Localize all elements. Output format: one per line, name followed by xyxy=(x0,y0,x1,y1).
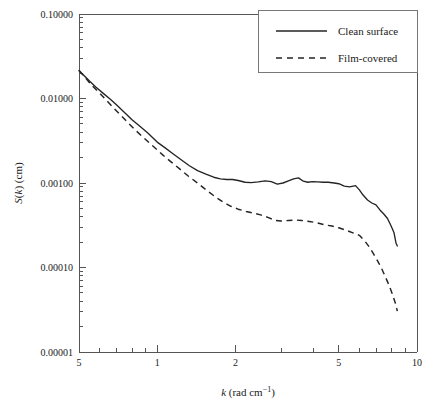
y-axis-tick-labels: 0.100000.010000.001000.000100.00001 xyxy=(41,9,74,358)
svg-text:k (rad cm−1): k (rad cm−1) xyxy=(221,385,275,400)
x-tick-label: 1 xyxy=(155,357,160,368)
y-tick-label: 0.01000 xyxy=(41,93,74,104)
x-tick-label: 5 xyxy=(336,357,341,368)
x-axis-tick-labels: 512510 xyxy=(77,357,423,368)
y-tick-label: 0.00010 xyxy=(41,262,74,273)
x-tick-label: 5 xyxy=(77,357,82,368)
y-tick-label: 0.00001 xyxy=(41,347,74,358)
y-axis-title: S(k) (cm) xyxy=(12,162,25,204)
scatter-line-plot: 0.100000.010000.001000.000100.00001 5125… xyxy=(0,0,437,412)
series-clean-surface xyxy=(79,70,397,246)
data-series-layer xyxy=(79,70,397,311)
series-film-covered xyxy=(79,70,397,311)
legend-label-film-covered: Film-covered xyxy=(338,52,398,64)
y-tick-label: 0.10000 xyxy=(41,9,74,20)
x-axis-ticks xyxy=(79,345,417,352)
svg-text:S(k) (cm): S(k) (cm) xyxy=(12,162,25,204)
x-tick-label: 10 xyxy=(412,357,422,368)
legend-label-clean-surface: Clean surface xyxy=(338,25,398,37)
x-axis-title: k (rad cm−1) xyxy=(221,385,275,400)
y-tick-label: 0.00100 xyxy=(41,178,74,189)
y-axis-ticks xyxy=(79,14,86,352)
figure-container: 0.100000.010000.001000.000100.00001 5125… xyxy=(0,0,437,412)
legend: Clean surface Film-covered xyxy=(258,10,417,72)
x-tick-label: 2 xyxy=(233,357,238,368)
